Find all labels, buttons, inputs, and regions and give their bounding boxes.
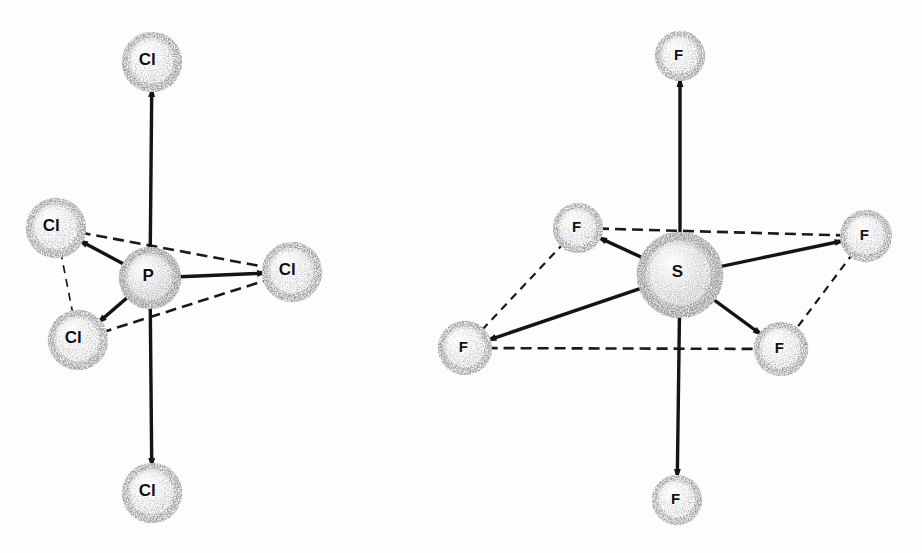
atom-symbol-pcl5-equatorial-upper-left: Cl: [43, 216, 60, 235]
atom-symbol-pcl5-center: P: [142, 266, 153, 285]
atom-symbol-pcl5-axial-bottom: Cl: [139, 481, 156, 500]
atom-pcl5-axial-top: Cl: [122, 32, 182, 92]
atom-sf6-axial-bottom: F: [652, 475, 702, 525]
guide-line-sf6-equatorial-back-right-to-equatorial-front-right: [794, 253, 854, 332]
atom-sf6-axial-top: F: [655, 31, 705, 81]
bond-sf6-center-to-equatorial-front-left: [485, 281, 662, 341]
atom-pcl5-axial-bottom: Cl: [122, 463, 182, 523]
molecular-model-figure: PClClClClClSFFFFFF: [0, 0, 922, 553]
atom-sf6-center: S: [637, 232, 723, 318]
atom-pcl5-equatorial-upper-left: Cl: [26, 198, 86, 258]
atom-symbol-sf6-equatorial-back-right: F: [860, 226, 869, 243]
guide-line-sf6-equatorial-back-left-to-equatorial-back-right: [598, 229, 845, 236]
guide-line-pcl5-equatorial-upper-left-to-equatorial-lower-left: [61, 252, 74, 317]
guide-line-sf6-equatorial-front-left-to-equatorial-front-right: [487, 348, 760, 349]
atom-symbol-sf6-axial-bottom: F: [671, 490, 680, 507]
atom-pcl5-center: P: [119, 247, 181, 309]
atom-pcl5-equatorial-right: Cl: [262, 242, 322, 302]
bond-pcl5-center-to-axial-top: [150, 86, 152, 265]
atom-spheres-layer: PClClClClClSFFFFFF: [26, 31, 892, 525]
atom-sf6-equatorial-front-right: F: [754, 322, 808, 376]
atom-symbol-sf6-center: S: [672, 262, 683, 281]
atom-symbol-pcl5-equatorial-lower-left: Cl: [65, 328, 82, 347]
atom-symbol-pcl5-equatorial-right: Cl: [279, 260, 296, 279]
atom-symbol-sf6-axial-top: F: [674, 46, 683, 63]
atom-sf6-equatorial-back-left: F: [553, 203, 603, 253]
atom-symbol-sf6-equatorial-front-left: F: [459, 338, 468, 355]
atom-symbol-sf6-equatorial-back-left: F: [572, 218, 581, 235]
bond-pcl5-center-to-axial-bottom: [150, 291, 152, 469]
atom-symbol-sf6-equatorial-front-right: F: [775, 339, 784, 356]
atom-symbol-pcl5-axial-top: Cl: [139, 50, 156, 69]
atom-sf6-equatorial-back-right: F: [840, 210, 892, 262]
bond-lines-layer: [77, 76, 845, 480]
atom-pcl5-equatorial-lower-left: Cl: [48, 310, 108, 370]
atom-sf6-equatorial-front-left: F: [438, 321, 492, 375]
molecule-canvas: PClClClClClSFFFFFF: [0, 0, 922, 553]
bond-sf6-center-to-axial-bottom: [677, 293, 679, 480]
